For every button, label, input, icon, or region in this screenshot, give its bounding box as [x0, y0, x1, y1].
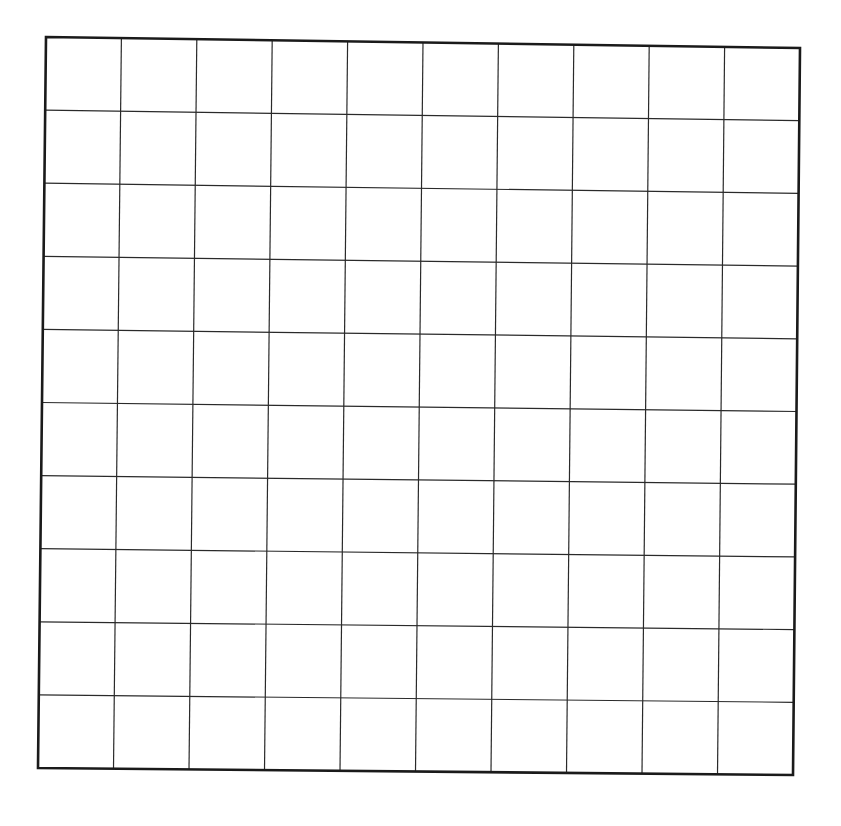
square-grid [0, 0, 841, 826]
grid-lines [39, 38, 800, 774]
